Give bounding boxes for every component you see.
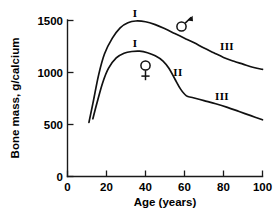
phase-label-male-I: I bbox=[133, 7, 138, 19]
x-tick-label-40: 40 bbox=[139, 181, 152, 193]
y-tick-label-1000: 1000 bbox=[37, 67, 63, 79]
bone-mass-chart: 1500 1000 500 0 0 20 40 60 80 100 Age (y… bbox=[0, 0, 278, 211]
phase-label-male-III: III bbox=[220, 40, 234, 52]
chart-canvas: 1500 1000 500 0 0 20 40 60 80 100 Age (y… bbox=[0, 0, 278, 211]
x-axis-title: Age (years) bbox=[134, 196, 197, 208]
phase-label-female-I: I bbox=[133, 37, 138, 49]
x-tick-label-60: 60 bbox=[178, 181, 191, 193]
x-tick-label-100: 100 bbox=[253, 181, 272, 193]
male-symbol-icon bbox=[177, 16, 193, 31]
y-axis-title: Bone mass, g/calcium bbox=[9, 38, 21, 159]
y-tick-label-0: 0 bbox=[57, 171, 63, 183]
female-symbol-icon bbox=[141, 61, 150, 80]
phase-label-female-II: II bbox=[173, 66, 182, 78]
phase-label-female-III: III bbox=[215, 90, 229, 102]
x-tick-label-20: 20 bbox=[100, 181, 113, 193]
x-tick-label-0: 0 bbox=[64, 181, 70, 193]
y-tick-label-1500: 1500 bbox=[37, 15, 63, 27]
female-bone-mass-curve bbox=[93, 51, 263, 120]
y-tick-label-500: 500 bbox=[44, 119, 63, 131]
x-tick-label-80: 80 bbox=[217, 181, 230, 193]
